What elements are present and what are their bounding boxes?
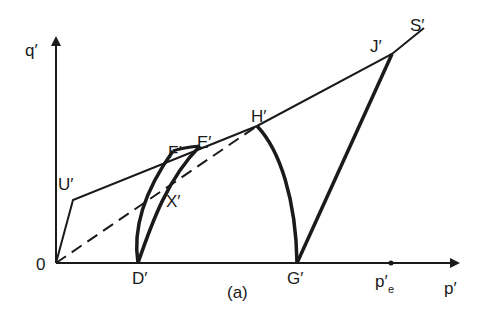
label-h: H′ [251, 107, 266, 126]
label-g: G′ [287, 269, 303, 288]
origin-label: 0 [36, 255, 45, 274]
y-axis-label: q′ [25, 41, 38, 60]
stress-path-g-to-h [257, 126, 297, 263]
label-s: S′ [410, 16, 425, 35]
label-pe-subscript: e [388, 283, 394, 295]
label-e: E′ [197, 133, 212, 152]
label-j: J′ [370, 37, 382, 56]
diagram-figure: q′ 0 p′ U′ F′ E′ X′ H′ J′ S′ D′ G′ p′ e … [0, 0, 480, 314]
label-pe: p′ [375, 272, 388, 291]
diagram-canvas: q′ 0 p′ U′ F′ E′ X′ H′ J′ S′ D′ G′ p′ e … [0, 0, 480, 314]
label-u: U′ [58, 175, 73, 194]
label-x: X′ [166, 192, 181, 211]
pe-point [389, 261, 394, 266]
x-axis-label: p′ [444, 279, 457, 298]
state-boundary-line [56, 28, 424, 263]
label-d: D′ [132, 269, 147, 288]
figure-caption: (a) [227, 283, 248, 302]
label-f: F′ [168, 143, 182, 162]
stress-path-g-to-j [297, 54, 392, 263]
